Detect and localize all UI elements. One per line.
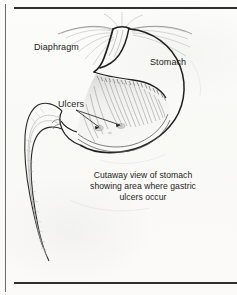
- label-diaphragm: Diaphragm: [34, 42, 79, 52]
- label-ulcers: Ulcers: [58, 99, 84, 109]
- caption-line-1: Cutaway view of stomach: [63, 170, 223, 181]
- illustration-page: Diaphragm Stomach Ulcers Cutaway view of…: [0, 0, 237, 295]
- label-stomach: Stomach: [150, 57, 186, 67]
- gastroesophageal-junction: [113, 27, 130, 29]
- duodenum: [25, 103, 62, 261]
- esophagus-inner-wall: [100, 28, 129, 68]
- gastric-mucosa-field: [77, 74, 170, 148]
- caption-line-2: showing area where gastric: [63, 181, 223, 192]
- caption-line-3: ulcers occur: [63, 192, 223, 203]
- figure-caption: Cutaway view of stomach showing area whe…: [63, 170, 223, 203]
- duodenum-inner-lines: [28, 115, 60, 257]
- pylorus: [60, 111, 80, 145]
